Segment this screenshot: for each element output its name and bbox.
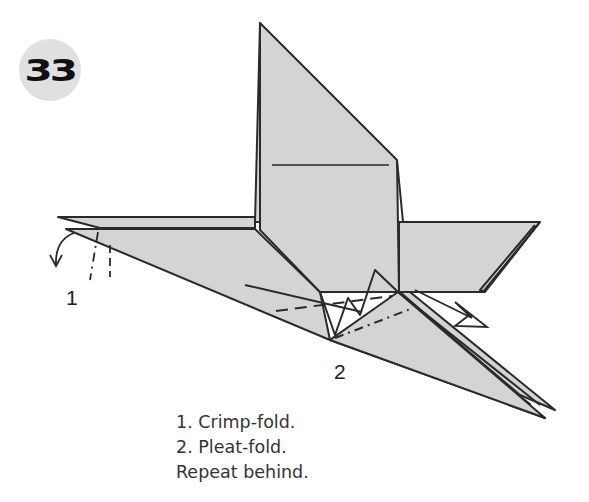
callout-1-label: 1	[66, 286, 78, 310]
instruction-1: 1. Crimp-fold.	[176, 410, 309, 435]
instruction-2: 2. Pleat-fold.	[176, 435, 309, 460]
left-wing-back	[58, 217, 255, 228]
origami-step-diagram: 33 1 2 1. Crimp-fold. 2. Pleat-fold. Rep…	[0, 0, 589, 502]
right-wing	[399, 222, 540, 292]
step-number-badge: 33	[19, 39, 81, 101]
step-number: 33	[25, 53, 76, 88]
instruction-3: Repeat behind.	[176, 460, 309, 485]
fin	[260, 23, 399, 292]
callout-2-label: 2	[334, 360, 346, 384]
instructions: 1. Crimp-fold. 2. Pleat-fold. Repeat beh…	[176, 410, 309, 485]
